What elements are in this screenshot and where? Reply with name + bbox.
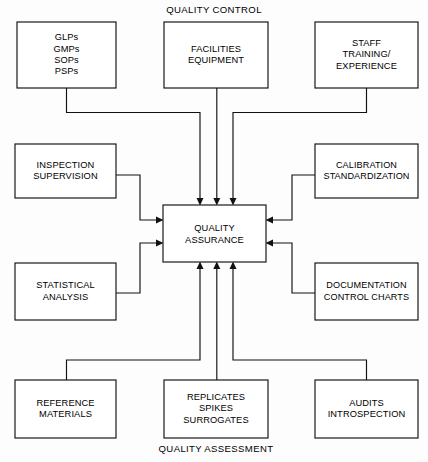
arrowhead-facilities-to-qa (213, 198, 220, 206)
connector-group-right (266, 175, 316, 293)
connector-calibration-to-qa (272, 175, 316, 220)
arrowhead-audits-to-qa (230, 262, 237, 270)
arrowhead-glps-to-qa (197, 198, 204, 206)
box-facilities-equipment-rect[interactable] (164, 22, 268, 88)
connector-group-left (116, 175, 164, 293)
arrowhead-staff-to-qa (230, 198, 237, 206)
connector-inspection-to-qa (116, 175, 158, 220)
box-staff-training-experience-rect[interactable] (315, 22, 418, 88)
arrowhead-statistical-to-qa (156, 240, 164, 247)
arrowhead-calibration-to-qa (266, 217, 274, 224)
caption-quality-assessment: QUALITY ASSESSMENT (142, 443, 290, 454)
arrowhead-replicates-to-qa (213, 262, 220, 270)
box-quality-assurance-rect[interactable] (163, 205, 266, 262)
box-inspection-supervision-rect[interactable] (15, 144, 116, 198)
connector-statistical-to-qa (116, 243, 158, 293)
box-calibration-standardization-rect[interactable] (315, 144, 418, 198)
connector-documentation-to-qa (272, 243, 316, 293)
diagram-canvas (0, 0, 428, 462)
box-replicates-spikes-surrogates-rect[interactable] (164, 380, 268, 438)
arrowhead-reference-to-qa (197, 262, 204, 270)
caption-quality-control: QUALITY CONTROL (140, 4, 288, 15)
box-statistical-analysis-rect[interactable] (15, 263, 116, 320)
box-reference-materials-rect[interactable] (15, 380, 116, 438)
box-glps-gmps-sops-psps-rect[interactable] (17, 22, 116, 88)
box-audits-introspection-rect[interactable] (315, 380, 418, 438)
arrowhead-inspection-to-qa (156, 217, 164, 224)
quality-assurance-diagram: QUALITY CONTROL GLPs GMPs SOPs PSPs FACI… (0, 0, 428, 462)
box-documentation-control-charts-rect[interactable] (315, 263, 418, 320)
arrowhead-documentation-to-qa (266, 240, 274, 247)
